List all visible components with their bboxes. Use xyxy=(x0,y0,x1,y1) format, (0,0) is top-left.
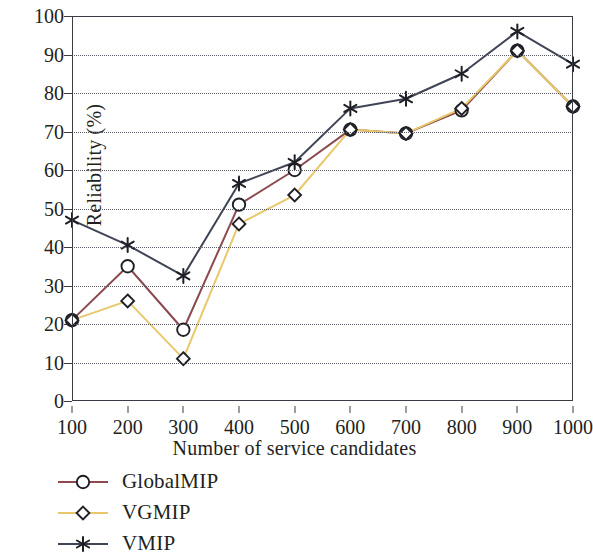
legend-label: VMIP xyxy=(122,531,175,556)
y-tick-label: 70 xyxy=(10,120,72,143)
x-axis-label: Number of service candidates xyxy=(0,437,589,460)
y-tick-mark xyxy=(64,16,72,17)
x-tick-label: 700 xyxy=(391,416,421,439)
y-tick-label: 30 xyxy=(10,274,72,297)
y-tick-label: 50 xyxy=(10,197,72,220)
x-tick-mark xyxy=(72,406,73,413)
y-tick-mark xyxy=(64,93,72,94)
x-tick-mark xyxy=(406,406,407,413)
x-tick-mark xyxy=(127,406,128,413)
legend-label: GlobalMIP xyxy=(122,469,218,494)
legend-label: VGMIP xyxy=(122,500,191,525)
x-tick-mark xyxy=(350,406,351,413)
x-tick-mark xyxy=(573,406,574,413)
x-tick-label: 900 xyxy=(502,416,532,439)
x-tick-label: 500 xyxy=(280,416,310,439)
x-tick-label: 200 xyxy=(113,416,143,439)
plot-frame xyxy=(72,16,573,401)
y-tick-label: 40 xyxy=(10,236,72,259)
y-tick-mark xyxy=(64,247,72,248)
x-tick-mark xyxy=(461,406,462,413)
x-tick-mark xyxy=(517,406,518,413)
y-tick-mark xyxy=(64,209,72,210)
legend-swatch-diamond-icon xyxy=(56,502,110,524)
y-tick-mark xyxy=(64,363,72,364)
y-axis-ticks: 0102030405060708090100 xyxy=(0,16,72,401)
y-tick-label: 0 xyxy=(10,390,72,413)
plot-area xyxy=(72,16,573,401)
y-tick-label: 60 xyxy=(10,159,72,182)
y-tick-mark xyxy=(64,401,72,402)
x-tick-label: 400 xyxy=(224,416,254,439)
chart-legend: GlobalMIPVGMIPVMIP xyxy=(56,468,218,557)
legend-swatch-circle-icon xyxy=(56,471,110,493)
y-tick-mark xyxy=(64,170,72,171)
x-tick-mark xyxy=(294,406,295,413)
x-tick-label: 100 xyxy=(57,416,87,439)
legend-swatch-asterisk-icon xyxy=(56,533,110,555)
x-tick-label: 300 xyxy=(168,416,198,439)
y-tick-mark xyxy=(64,55,72,56)
y-tick-mark xyxy=(64,132,72,133)
x-tick-label: 600 xyxy=(335,416,365,439)
legend-item-vmip[interactable]: VMIP xyxy=(56,530,218,557)
y-tick-mark xyxy=(64,286,72,287)
y-tick-label: 20 xyxy=(10,313,72,336)
x-tick-label: 1000 xyxy=(553,416,593,439)
legend-item-vgmip[interactable]: VGMIP xyxy=(56,499,218,526)
x-tick-mark xyxy=(183,406,184,413)
x-axis-ticks: 1002003004005006007008009001000 xyxy=(72,406,573,434)
y-tick-label: 10 xyxy=(10,351,72,374)
x-tick-mark xyxy=(239,406,240,413)
y-tick-label: 90 xyxy=(10,43,72,66)
y-tick-label: 100 xyxy=(10,5,72,28)
legend-item-globalmip[interactable]: GlobalMIP xyxy=(56,468,218,495)
y-tick-label: 80 xyxy=(10,82,72,105)
x-tick-label: 800 xyxy=(447,416,477,439)
